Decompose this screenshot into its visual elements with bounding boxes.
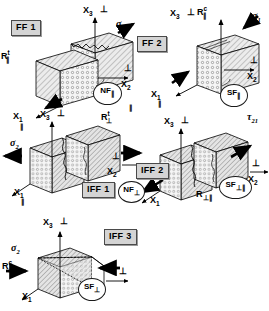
strength-label-ff2: Rc∥ — [197, 6, 207, 19]
axis-label-x3-iff3: X3 — [43, 218, 53, 229]
stress-label-sigma1-ff1: σ1 — [116, 19, 125, 32]
mode-label-iff1: IFF 1 — [82, 182, 115, 198]
diagram-vector-layer — [0, 0, 269, 311]
axis-label-x2-ff1: X2 — [121, 80, 131, 91]
failure-tag-sf-perp: SF⊥ — [78, 278, 106, 301]
axis-label-x1-iff2: X1 — [150, 196, 160, 207]
panel-ff2-graphic — [172, 16, 259, 96]
failure-tag-nf-perp: NF⊥ — [118, 181, 145, 203]
axis-label-x3-ff2: X3 — [170, 9, 180, 20]
panel-ff1-graphic — [36, 18, 133, 118]
perp-marker-x2-ff2: ⊥ — [250, 56, 258, 65]
mode-label-iff3: IFF 3 — [104, 229, 137, 245]
stress-label-tau21-iff2: τ21 — [247, 112, 258, 125]
axis-label-x3-ff1: X3 — [83, 6, 93, 17]
perp-marker-x3-iff2: ⊥ — [181, 116, 189, 125]
mode-label-iff2: IFF 2 — [136, 163, 169, 179]
perp-marker-x3-ff1: ⊥ — [100, 5, 108, 14]
mode-label-ff2: FF 2 — [137, 36, 167, 52]
perp-marker-x2-iff2: ⊥ — [252, 159, 260, 168]
axis-label-x3-iff2: X3 — [164, 117, 174, 128]
perp-marker-x2-ff1: ⊥ — [124, 64, 132, 73]
stress-label-sigma1-ff2: σ1 — [252, 11, 261, 24]
strength-label-iff2: R⊥∥ — [196, 190, 213, 201]
mode-label-ff1: FF 1 — [11, 20, 41, 36]
axis-label-x1-iff3: X1 — [22, 292, 32, 303]
perp-marker-x2-iff1: ⊥ — [112, 152, 120, 161]
par-marker-x1-ff1: ∥ — [20, 123, 24, 130]
perp-marker-x3-iff1: ⊥ — [57, 109, 65, 118]
axis-label-x2-ff2: X2 — [247, 72, 257, 83]
failure-tag-nf-parallel: NF∥ — [93, 82, 122, 105]
strength-label-iff1: Rt⊥ — [101, 111, 112, 124]
perp-marker-x2-iff3: ⊥ — [119, 267, 127, 276]
par-marker-x1-ff2: ∥ — [158, 100, 162, 107]
axis-label-x3-iff1: X3 — [40, 110, 50, 121]
strength-label-ff1: Rt∥ — [1, 50, 10, 63]
par-marker-x1-iff1: ∥ — [21, 198, 25, 205]
failure-tag-sf-parallel: SF∥ — [220, 84, 248, 107]
perp-marker-x3-iff3: ⊥ — [60, 217, 68, 226]
axis-label-x2-iff1: X2 — [107, 167, 117, 178]
perp-marker-x3-ff2: ⊥ — [187, 8, 195, 17]
ff1-front-block — [36, 50, 98, 106]
stress-label-sigma2-iff1: σ2 — [10, 138, 19, 151]
strength-label-iff3: Rc⊥ — [2, 260, 14, 273]
figure-canvas: FF 1 X3 ⊥ X2 ⊥ X1 ∥ σ1 Rt∥ NF∥ FF 2 X3 ⊥… — [0, 0, 269, 311]
par-marker-x1-iff2: ∥ — [129, 104, 133, 111]
failure-tag-sf-perp-parallel: SF⊥∥ — [219, 176, 252, 199]
stress-label-sigma2-iff3: σ2 — [11, 243, 20, 256]
axis-label-x1-ff1: X1 — [13, 112, 23, 123]
